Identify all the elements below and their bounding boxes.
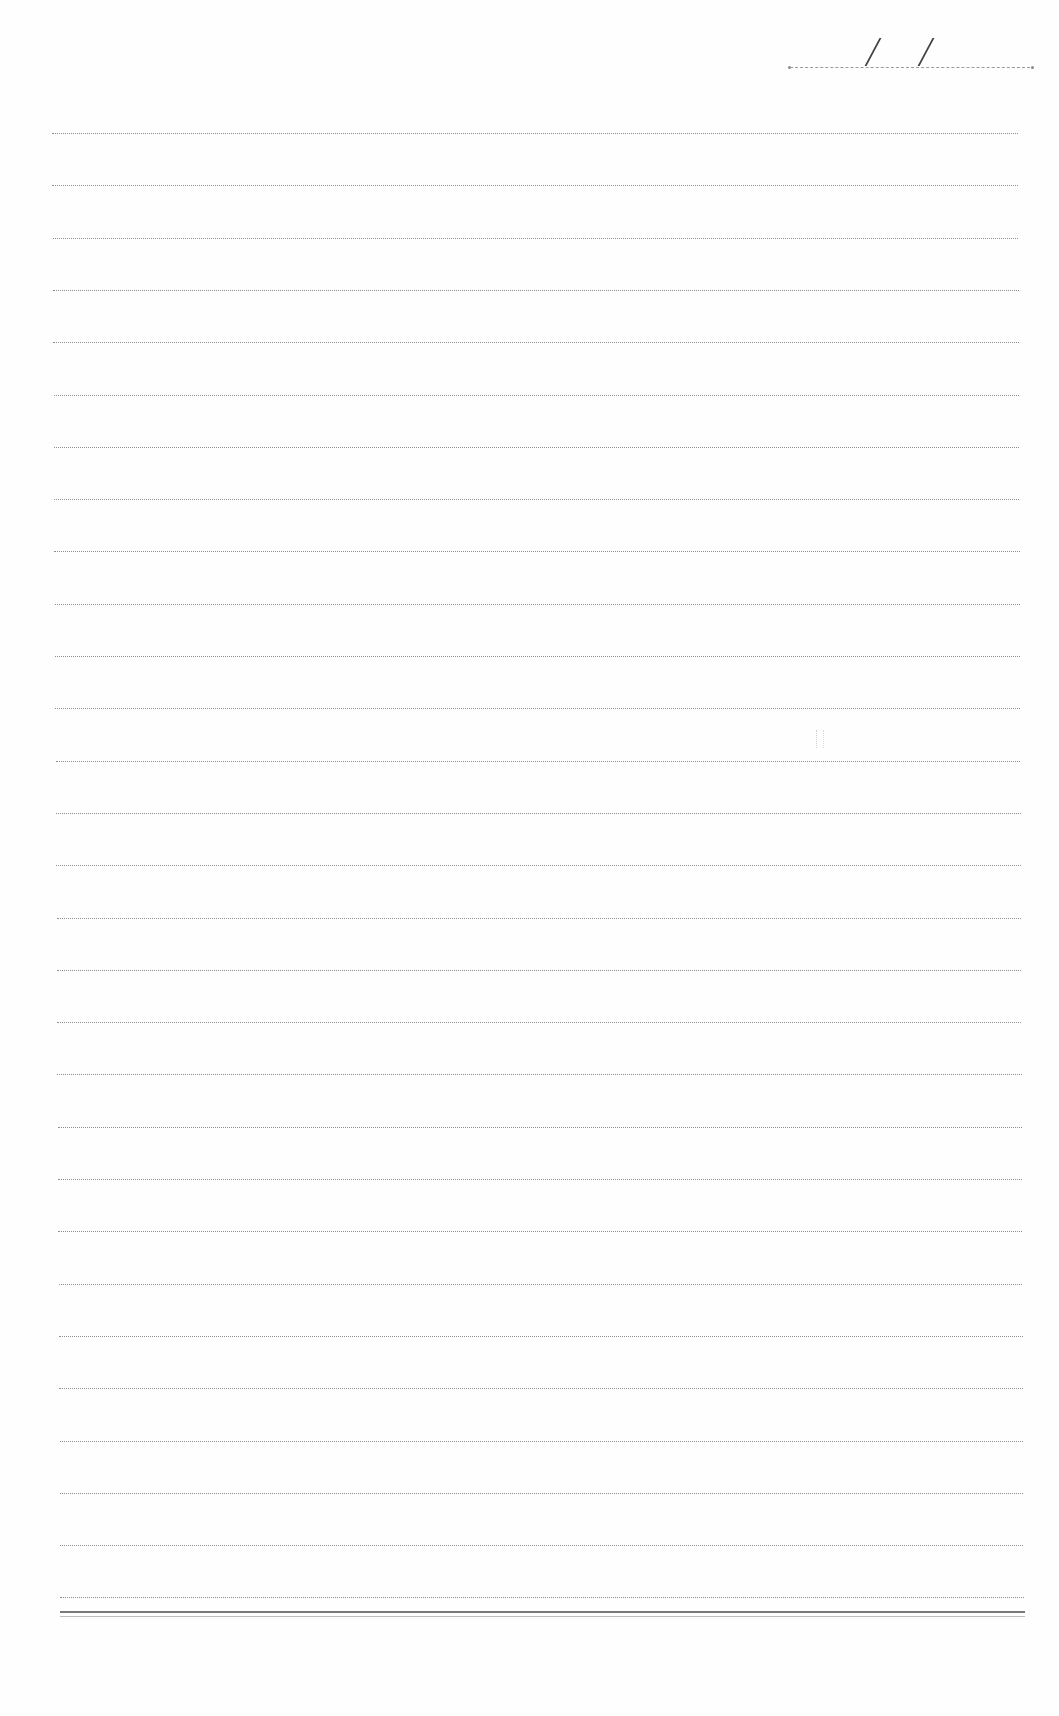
writing-line (52, 133, 1018, 134)
writing-line (57, 918, 1021, 919)
writing-line (60, 1493, 1023, 1494)
writing-line (60, 1441, 1023, 1442)
bottom-rule-thick (60, 1611, 1025, 1613)
date-field-end-dot (1031, 66, 1034, 69)
writing-line (56, 865, 1021, 866)
writing-line (59, 1336, 1023, 1337)
writing-line (57, 970, 1021, 971)
writing-line (57, 1022, 1021, 1023)
writing-line (56, 813, 1021, 814)
date-separator-2 (918, 38, 935, 66)
writing-line (59, 1388, 1023, 1389)
writing-line (58, 1231, 1022, 1232)
date-field-underline (790, 67, 1030, 68)
writing-line (55, 708, 1020, 709)
writing-line (59, 1284, 1022, 1285)
writing-line (53, 342, 1019, 343)
bottom-double-rule (60, 1611, 1025, 1617)
writing-line (54, 447, 1019, 448)
writing-line (54, 551, 1020, 552)
writing-line (54, 499, 1019, 500)
writing-line (55, 656, 1020, 657)
bottom-rule-thin (60, 1616, 1025, 1617)
writing-line (53, 238, 1018, 239)
writing-line (58, 1179, 1022, 1180)
writing-line (53, 290, 1019, 291)
date-field[interactable] (790, 30, 1030, 75)
writing-line (60, 1597, 1024, 1598)
writing-line (57, 1074, 1022, 1075)
date-separator-1 (865, 38, 882, 66)
writing-line (52, 185, 1018, 186)
writing-line (55, 604, 1020, 605)
writing-line (54, 395, 1019, 396)
paper-mark (816, 730, 824, 748)
writing-line (58, 1127, 1022, 1128)
notebook-page (0, 0, 1059, 1716)
writing-line (56, 761, 1020, 762)
writing-line (60, 1545, 1023, 1546)
